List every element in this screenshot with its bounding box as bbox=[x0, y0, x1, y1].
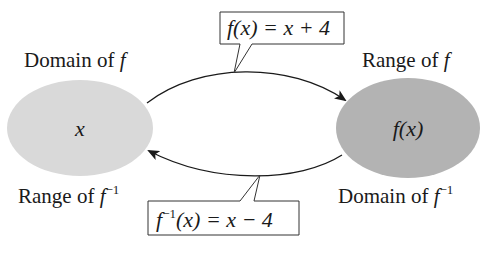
inverse-exponent: −1 bbox=[106, 182, 120, 197]
domain-of-f-label: Domain of f bbox=[24, 50, 126, 71]
forward-function-formula: f(x) = x + 4 bbox=[227, 17, 330, 39]
label-text: Range of bbox=[362, 48, 444, 72]
range-element-fx: f(x) bbox=[393, 118, 424, 140]
function-symbol: f bbox=[120, 48, 126, 72]
domain-element-x: x bbox=[75, 118, 85, 140]
domain-of-f-inverse-label: Domain of f−1 bbox=[338, 183, 453, 207]
formula-lhs: f(x) bbox=[227, 15, 258, 40]
range-of-f-label: Range of f bbox=[362, 50, 450, 71]
formula-rhs: (x) = x − 4 bbox=[176, 207, 273, 232]
function-symbol: f bbox=[444, 48, 450, 72]
label-text: Domain of bbox=[24, 48, 120, 72]
formula-rhs: = x + 4 bbox=[258, 15, 330, 40]
label-text: Domain of bbox=[338, 184, 434, 208]
range-of-f-inverse-label: Range of f−1 bbox=[18, 183, 119, 207]
inverse-exponent: −1 bbox=[440, 182, 454, 197]
forward-arrow bbox=[147, 72, 345, 103]
label-text: Range of bbox=[18, 184, 100, 208]
inverse-exponent: −1 bbox=[162, 206, 176, 221]
inverse-function-formula: f−1(x) = x − 4 bbox=[156, 207, 273, 231]
inverse-arrow bbox=[149, 151, 342, 176]
